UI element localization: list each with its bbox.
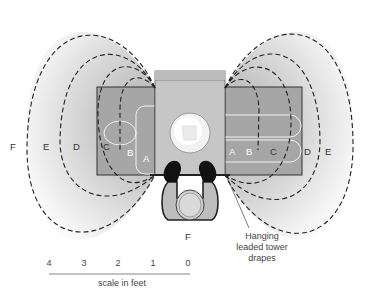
zone-label-left-c: C [103,141,110,152]
zone-label-left-f: F [10,141,16,152]
zone-label-bottom-f: F [185,231,191,242]
scale-tick-0: 0 [185,258,190,268]
annotation-line-2: leaded tower [236,242,288,252]
scale-tick-4: 4 [46,258,51,268]
zone-label-right-b: B [246,146,252,157]
zone-label-left-d: D [73,141,80,152]
scale-bar: 4 3 2 1 0 scale in feet [46,258,190,288]
scale-label: scale in feet [98,278,147,288]
zone-label-right-c: C [270,146,277,157]
c-arm-header [155,71,225,80]
zone-label-right-e: E [325,146,331,157]
zone-label-left-b: B [127,147,133,158]
annotation-line-1: Hanging [245,231,279,241]
zone-label-right-a: A [229,146,236,157]
annotation-line-3: drapes [248,253,276,263]
intensifier-square-icon [182,126,196,140]
scale-tick-2: 2 [115,258,120,268]
scale-tick-3: 3 [81,258,86,268]
scale-tick-1: 1 [150,258,155,268]
zone-label-left-a: A [143,153,150,164]
radiation-isodose-diagram: F E D C B A A B C D E F Hanging leaded t… [0,0,368,294]
zone-label-left-e: E [43,141,49,152]
zone-label-right-d: D [304,146,311,157]
